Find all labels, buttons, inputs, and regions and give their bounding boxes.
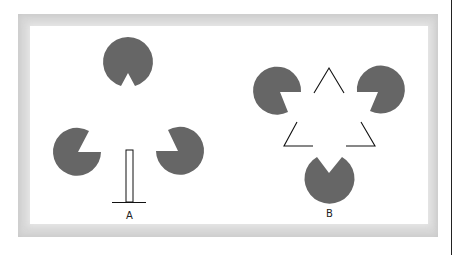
notched-disc-top-left	[253, 67, 301, 115]
panel-a	[53, 37, 204, 176]
vertical-bar	[126, 150, 133, 202]
notched-disc-bottom	[305, 157, 355, 204]
notched-disc-left	[53, 128, 101, 176]
angle-bottom-left	[284, 122, 313, 146]
panel-a-label: A	[126, 210, 133, 221]
panel-b-label: B	[326, 208, 333, 219]
angle-top	[314, 68, 344, 93]
bar-figure	[112, 150, 146, 203]
panel-b	[253, 66, 405, 204]
notched-disc-right	[156, 127, 204, 175]
illusion-figures: A B	[0, 0, 454, 255]
notched-disc-top	[103, 37, 153, 86]
angle-bottom-right	[346, 122, 375, 146]
notched-disc-top-right	[357, 66, 405, 114]
